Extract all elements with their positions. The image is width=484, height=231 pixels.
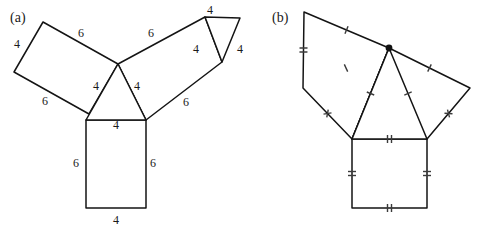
length-label: 4 — [207, 3, 213, 17]
length-label: 4 — [93, 79, 99, 93]
panel-b: (b) — [272, 10, 470, 212]
square-b — [352, 139, 427, 208]
panel-a-caption: (a) — [10, 10, 26, 26]
length-label: 4 — [134, 79, 140, 93]
length-label: 6 — [42, 94, 48, 108]
geometry-figure-svg: (a) 4 6 6 4 4 4 6 6 4 4 — [0, 0, 484, 231]
bottom-rectangle-a — [86, 120, 146, 208]
length-label: 6 — [150, 156, 156, 170]
length-label: 4 — [113, 118, 119, 132]
length-label: 4 — [14, 37, 20, 51]
tick-mark — [445, 113, 453, 114]
panel-a: (a) 4 6 6 4 4 4 6 6 4 4 — [10, 3, 243, 227]
figure-canvas: (a) 4 6 6 4 4 4 6 6 4 4 — [0, 0, 484, 231]
length-label: 6 — [148, 26, 154, 40]
length-label: 4 — [193, 42, 199, 56]
length-label: 6 — [183, 95, 189, 109]
length-label: 6 — [78, 26, 84, 40]
length-label: 6 — [73, 156, 79, 170]
panel-b-caption: (b) — [272, 10, 289, 26]
apex-vertex-dot — [386, 45, 393, 52]
length-label: 4 — [113, 213, 119, 227]
length-label: 4 — [237, 42, 243, 56]
